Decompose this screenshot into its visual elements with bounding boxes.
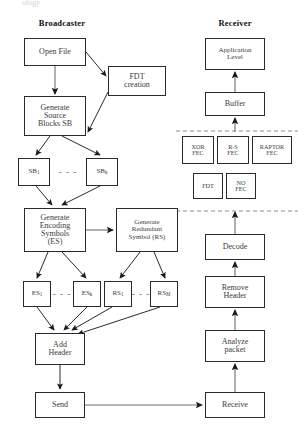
es-ellipsis-label: - - -: [53, 289, 72, 299]
generate-source-blocks-label: Generate Source Blocks SB: [38, 104, 72, 128]
decode[interactable]: Decode: [205, 234, 265, 260]
fdt-creation-label: FDT creation: [124, 73, 150, 89]
analyze-packet[interactable]: Analyze packet: [205, 330, 265, 362]
no-fec-label: NO FEC: [235, 180, 246, 193]
es-1-subscript: 1: [40, 292, 43, 297]
rs-m-subscript: M: [166, 292, 170, 297]
application-level-label: Application Level: [218, 47, 251, 61]
open-file-label: Open File: [39, 48, 71, 56]
remove-header-label: Remove Header: [222, 284, 249, 300]
generate-redundant-symbol[interactable]: Generate Redundant Symbol (RS): [116, 208, 178, 252]
decode-label: Decode: [223, 243, 247, 251]
rs-1-label: RS1: [112, 290, 123, 297]
broadcaster-title: Broadcaster: [24, 18, 100, 28]
xor-fec[interactable]: XOR FEC: [182, 136, 214, 164]
sb-1-subscript: 1: [37, 170, 40, 175]
sb-k-label: SBk: [96, 168, 107, 175]
rs-fec-label: R-S FEC: [227, 144, 238, 157]
xor-fec-label: XOR FEC: [191, 144, 204, 157]
rs-ellipsis: - - -: [132, 281, 150, 307]
sb-1-label: SB1: [28, 168, 39, 175]
receive-label: Receive: [222, 401, 248, 409]
es-k-subscript: k: [90, 292, 93, 297]
rs-m-label: RSM: [157, 290, 170, 297]
send-label: Send: [52, 401, 68, 409]
fdt-label: FDT: [202, 183, 214, 189]
sb-k-subscript: k: [105, 170, 108, 175]
rs-ellipsis-label: - - -: [132, 289, 151, 299]
sb-k[interactable]: SBk: [86, 158, 118, 186]
rs-1-subscript: 1: [121, 292, 124, 297]
buffer[interactable]: Buffer: [205, 92, 265, 116]
rs-1[interactable]: RS1: [104, 281, 132, 307]
no-fec[interactable]: NO FEC: [226, 173, 256, 199]
buffer-label: Buffer: [225, 100, 246, 108]
add-header-label: Add Header: [48, 341, 71, 357]
generate-encoding-symbols[interactable]: Generate Encoding Symbols (ES): [24, 208, 86, 252]
raptor-fec[interactable]: RAPTOR FEC: [252, 136, 292, 164]
send[interactable]: Send: [35, 392, 85, 418]
sb-ellipsis: - - -: [50, 158, 86, 186]
generate-redundant-symbol-label: Generate Redundant Symbol (RS): [129, 219, 166, 240]
remove-header[interactable]: Remove Header: [205, 276, 265, 308]
sb-ellipsis-label: - - -: [59, 167, 78, 177]
application-level[interactable]: Application Level: [205, 38, 265, 70]
receive[interactable]: Receive: [205, 392, 265, 418]
analyze-packet-label: Analyze packet: [222, 338, 249, 354]
es-1[interactable]: ES1: [23, 281, 51, 307]
diagram-canvas: ology: [0, 0, 300, 433]
raptor-fec-label: RAPTOR FEC: [260, 144, 284, 157]
generate-encoding-symbols-label: Generate Encoding Symbols (ES): [40, 214, 71, 247]
sb-1[interactable]: SB1: [18, 158, 50, 186]
es-ellipsis: - - -: [51, 281, 73, 307]
es-k[interactable]: ESk: [73, 281, 101, 307]
rs-m[interactable]: RSM: [150, 281, 178, 307]
add-header[interactable]: Add Header: [35, 333, 85, 365]
open-file[interactable]: Open File: [24, 38, 86, 66]
receiver-title: Receiver: [205, 18, 265, 28]
fdt[interactable]: FDT: [193, 173, 223, 199]
rs-fec[interactable]: R-S FEC: [217, 136, 249, 164]
generate-source-blocks[interactable]: Generate Source Blocks SB: [24, 96, 86, 136]
es-1-label: ES1: [32, 290, 43, 297]
fdt-creation[interactable]: FDT creation: [108, 66, 166, 96]
cropped-top-text: ology: [22, 0, 96, 7]
es-k-label: ESk: [82, 290, 93, 297]
